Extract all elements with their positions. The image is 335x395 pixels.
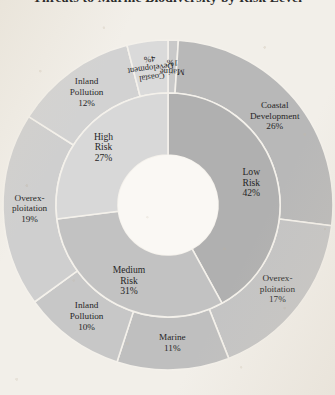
slice-label-risk-level-0: LowRisk42% — [242, 166, 260, 198]
donut-hole — [118, 155, 218, 255]
slice-label-risk-level-2: HighRisk27% — [94, 131, 113, 163]
sunburst-chart: Marine1%CoastalDevelopment26%Overex-ploi… — [0, 0, 335, 395]
page-title: Threats to Marine Biodiversity by Risk L… — [0, 0, 335, 6]
